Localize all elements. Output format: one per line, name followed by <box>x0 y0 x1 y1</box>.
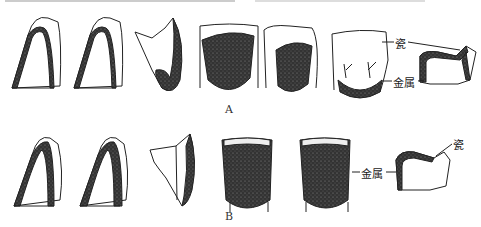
tooth-a5-lingual-view <box>264 26 317 92</box>
tooth-b6-posterior-section <box>396 152 450 190</box>
caption-b: B <box>225 210 233 223</box>
label-porcelain-a: 瓷 <box>395 35 406 51</box>
label-metal-a: 金属 <box>393 74 415 90</box>
tooth-a3-section <box>135 18 182 91</box>
row-b <box>14 134 452 212</box>
label-metal-b: 金属 <box>361 165 383 181</box>
tooth-b2-cross-section <box>80 137 128 206</box>
tooth-b5-lingual-view <box>300 138 350 212</box>
crown-diagram <box>0 0 481 227</box>
tooth-a2-cross-section <box>74 17 123 88</box>
caption-a: A <box>225 103 233 116</box>
label-porcelain-b: 瓷 <box>453 136 464 152</box>
tooth-a1-cross-section <box>12 17 61 88</box>
tooth-a7-posterior-section <box>420 46 476 84</box>
cropped-caption-remnant <box>5 0 425 2</box>
tooth-b1-cross-section <box>14 137 62 206</box>
tooth-b3-section <box>150 134 195 206</box>
tooth-a4-lingual-view <box>200 24 258 90</box>
tooth-b4-lingual-view <box>222 138 272 212</box>
tooth-a6-lingual-view <box>332 30 388 98</box>
